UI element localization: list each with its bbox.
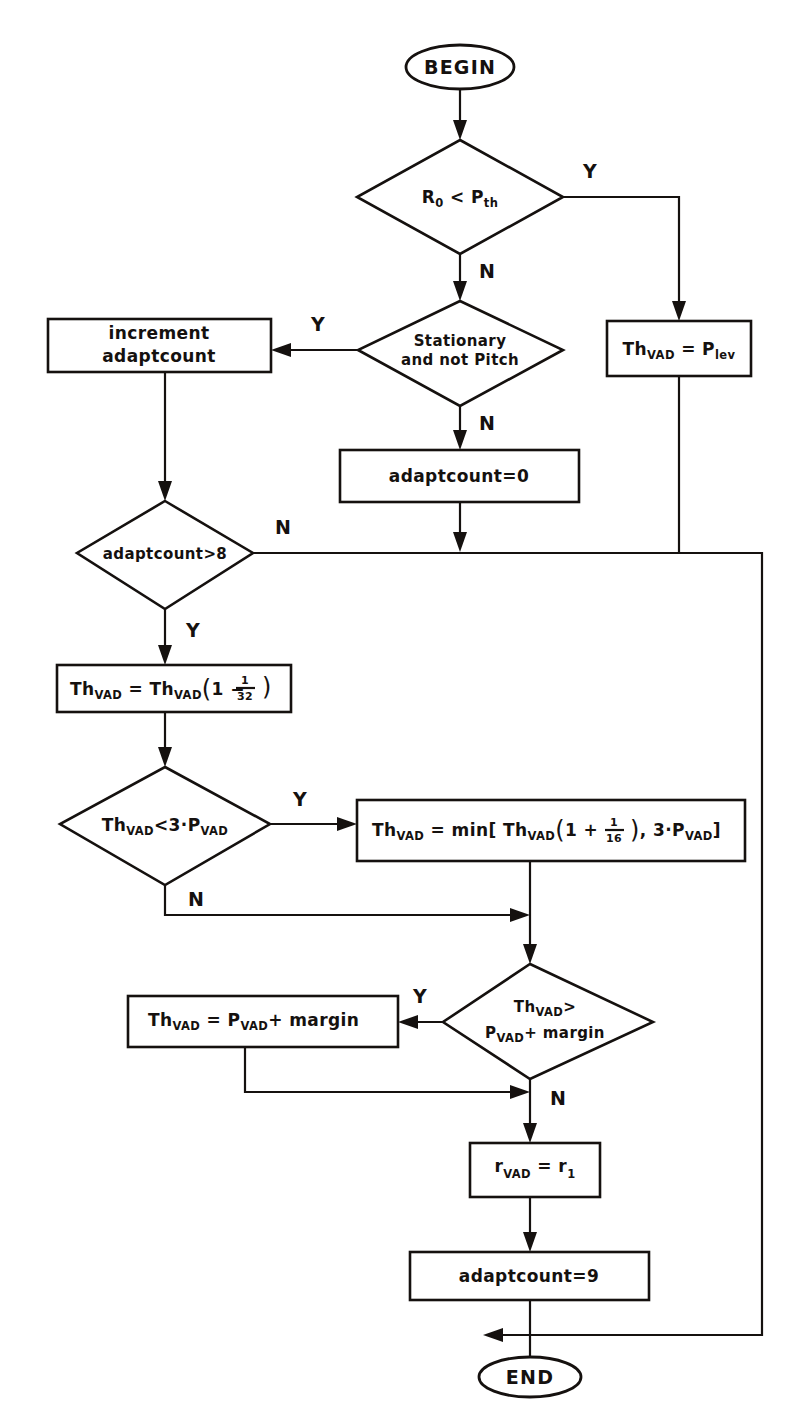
arrowhead-margin-no [523,1123,537,1143]
branch-label-adaptcount-yes: Y [185,619,200,641]
node-process-adaptcount-eq-0-label: adaptcount=0 [389,466,529,486]
node-process-adaptcount-eq-0[interactable]: adaptcount=0 [340,450,579,502]
edge-adaptcount8-no [253,553,762,1335]
branch-label-stationary-yes: Y [310,313,325,335]
arrowhead-r0-yes [672,301,686,321]
node-process-thvad-eq-pvad-margin[interactable]: ThVAD = PVAD+ margin [128,996,398,1047]
arrowhead-rvad-to-adaptcount9 [523,1232,537,1252]
node-begin[interactable]: BEGIN [406,45,514,89]
branch-label-thvad3-yes: Y [292,788,307,810]
branch-label-adaptcount-no: N [275,516,291,538]
fraction-denominator-16: 16 [606,832,622,845]
node-decision-thvad-gt-pvad-margin[interactable]: ThVAD> PVAD+ margin [443,964,653,1079]
node-process-increment-line2: adaptcount [102,346,216,366]
node-decision-stationary-line1: Stationary [414,332,507,350]
arrowhead-adaptcount8-yes [158,645,172,665]
fraction-numerator-16: 1 [610,816,618,829]
arrowhead-stationary-no [453,430,467,450]
edges-layer [158,89,762,1357]
arrowhead-adaptcount8-no [483,1328,503,1342]
fraction-numerator-32: 1 [241,674,249,687]
node-process-increment-line1: increment [109,323,210,343]
node-end[interactable]: END [479,1357,581,1397]
arrowhead-begin-to-r0 [453,120,467,140]
branch-label-thvad3-no: N [188,888,204,910]
node-process-adaptcount-eq-9-label: adaptcount=9 [459,1266,599,1286]
node-begin-label: BEGIN [424,56,496,78]
node-process-thvad-decay[interactable]: ThVAD = ThVAD(1 − 1 32 ) [57,665,291,712]
edge-marginbox-return [245,1047,518,1092]
branch-label-r0-yes: Y [582,160,597,182]
node-end-label: END [506,1366,554,1388]
arrowhead-marginbox-return [510,1085,530,1099]
node-process-thvad-min[interactable]: ThVAD = min[ ThVAD(1 + 1 16 ), 3·PVAD] [357,800,745,861]
node-process-rvad-eq-r1[interactable]: rVAD = r1 [470,1143,600,1197]
node-decision-stationary-and-not-pitch[interactable]: Stationary and not Pitch [358,301,563,406]
branch-label-margin-yes: Y [412,985,427,1007]
node-process-adaptcount-eq-9[interactable]: adaptcount=9 [410,1252,649,1300]
node-decision-thvad-lt-3pvad[interactable]: ThVAD<3·PVAD [60,767,270,885]
node-process-thvad-eq-plev[interactable]: ThVAD = Plev [607,321,751,376]
node-decision-stationary-line2: and not Pitch [401,351,519,369]
node-decision-adaptcount-gt-8[interactable]: adaptcount>8 [77,501,253,609]
branch-label-margin-no: N [550,1087,566,1109]
arrowhead-margin-yes [398,1015,418,1029]
fraction-denominator-32: 32 [237,690,253,703]
flowchart-canvas: BEGIN R0 < Pth Y N ThVAD = Plev Stationa… [0,0,806,1421]
arrowhead-decay-to-thvad3 [158,747,172,767]
branch-label-stationary-no: N [479,412,495,434]
edge-thvad3-no [165,885,518,915]
arrowhead-r0-no [453,281,467,301]
arrowhead-thvad3-no [510,908,530,922]
arrowhead-thvad3-yes [337,817,357,831]
node-process-increment-adaptcount[interactable]: increment adaptcount [48,319,271,372]
arrowhead-stationary-yes [271,343,291,357]
arrowhead-increment-to-adaptcount8 [158,481,172,501]
node-decision-adaptcount-gt-8-label: adaptcount>8 [103,545,227,563]
edge-r0-yes [563,197,679,309]
arrowhead-adaptcount0-down [453,532,467,552]
branch-label-r0-no: N [479,260,495,282]
flowchart-svg: BEGIN R0 < Pth Y N ThVAD = Plev Stationa… [0,0,806,1421]
arrowhead-min-down [523,944,537,964]
node-process-thvad-decay-close: ) [262,673,272,701]
node-decision-r0-lt-pth[interactable]: R0 < Pth [357,140,563,254]
